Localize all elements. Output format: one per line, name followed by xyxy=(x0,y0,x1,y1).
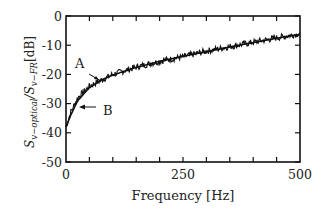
y-tick-label: -10 xyxy=(42,38,62,53)
annotation-a: A xyxy=(74,56,85,71)
y-tick-label: -20 xyxy=(42,67,62,82)
annotation-b-arrowhead xyxy=(79,105,85,110)
y-axis-title-s1: S xyxy=(23,140,37,148)
series-a-measured xyxy=(66,33,300,128)
y-axis-title-sub1: v−optical xyxy=(29,98,39,139)
y-tick-label: -50 xyxy=(42,155,62,170)
y-axis-title-sub2: v−FR xyxy=(29,61,39,86)
x-tick-label: 0 xyxy=(62,167,70,182)
y-axis-ticks: 0-10-20-30-40-50 xyxy=(42,9,300,170)
y-axis-title-s2: /S xyxy=(23,86,37,99)
data-series xyxy=(66,33,300,128)
svg-text:Sv−optical/Sv−FR[dB]: Sv−optical/Sv−FR[dB] xyxy=(23,36,39,148)
x-axis-ticks: 0250500 xyxy=(62,16,312,182)
x-axis-title: Frequency [Hz] xyxy=(132,188,235,203)
x-tick-label: 500 xyxy=(288,167,312,182)
y-tick-label: -30 xyxy=(42,96,62,111)
y-tick-label: 0 xyxy=(54,9,62,24)
annotation-b: B xyxy=(103,103,113,118)
annotation-a-arrowhead xyxy=(94,76,99,80)
y-axis-title-unit: [dB] xyxy=(23,36,37,62)
y-axis-title: Sv−optical/Sv−FR[dB] xyxy=(23,36,39,148)
chart: 0-10-20-30-40-50 0250500 A B Frequency [… xyxy=(0,0,333,216)
y-tick-label: -40 xyxy=(42,125,62,140)
x-tick-label: 250 xyxy=(171,167,195,182)
